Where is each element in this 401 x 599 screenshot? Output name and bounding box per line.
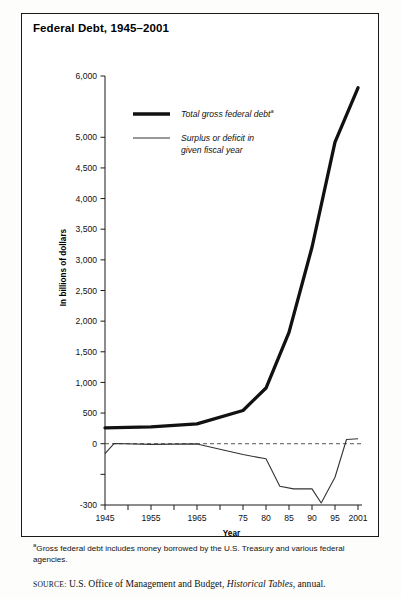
source-label: SOURCE: [33, 580, 66, 589]
plot-area: In billions of dollars 6,0005,0004,5004,… [21, 13, 379, 537]
x-axis-tick-label: 1965 [187, 513, 206, 523]
y-axis-tick-label: 3,500 [75, 224, 97, 234]
x-axis-tick-label: 1945 [95, 513, 114, 523]
footnote-text: Gross federal debt includes money borrow… [33, 544, 345, 564]
y-axis-tick-label: 5,000 [75, 132, 97, 142]
x-axis-label: Year [223, 529, 241, 538]
legend-label-debt-superscript: a [271, 108, 274, 114]
y-axis-tick-label: 2,500 [75, 286, 97, 296]
deficit-series-line [105, 439, 358, 503]
y-axis-tick-label: 1,000 [75, 378, 97, 388]
legend-label-debt: Total gross federal debt [181, 109, 271, 119]
y-axis-tick-label: 4,500 [75, 163, 97, 173]
legend-label-deficit-line1: Surplus or deficit in [181, 133, 254, 143]
footnote: aGross federal debt includes money borro… [33, 543, 373, 566]
legend-label-deficit-line2: given fiscal year [181, 145, 244, 155]
y-axis-tick-label: 1,500 [75, 347, 97, 357]
source-line: SOURCE: U.S. Office of Management and Bu… [33, 578, 383, 589]
x-axis-tick-label: 2001 [348, 513, 367, 523]
source-suffix: , annual. [293, 578, 326, 589]
x-axis-tick-label: 90 [307, 513, 317, 523]
x-axis-tick-label: 95 [330, 513, 340, 523]
x-axis-tick-label: 75 [238, 513, 248, 523]
y-axis-tick-label: 2,000 [75, 316, 97, 326]
source-title: Historical Tables [227, 578, 293, 589]
x-axis-tick-label: 85 [284, 513, 294, 523]
y-axis-tick-label: 0 [92, 439, 97, 449]
source-publisher: U.S. Office of Management and Budget, [69, 578, 224, 589]
y-axis-tick-label: 500 [83, 408, 98, 418]
y-axis-tick-label: -300 [80, 500, 97, 510]
y-axis-tick-label: 6,000 [75, 71, 97, 81]
y-axis-tick-label: 3,000 [75, 255, 97, 265]
line-chart-svg: 6,0005,0004,5004,0003,5003,0002,5002,000… [21, 13, 379, 537]
x-axis-tick-label: 80 [261, 513, 271, 523]
x-axis-tick-label: 1955 [141, 513, 160, 523]
figure-container: Federal Debt, 1945–2001 In billions of d… [0, 0, 401, 599]
y-axis-tick-label: 4,000 [75, 194, 97, 204]
